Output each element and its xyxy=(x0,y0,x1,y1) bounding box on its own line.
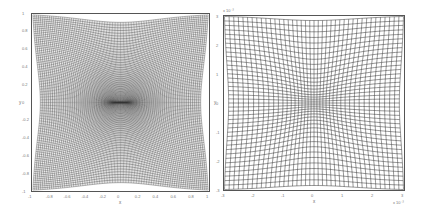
right-x-tick: 0 xyxy=(311,193,313,198)
right-x-tick: 2 xyxy=(371,193,373,198)
right-y-tick: -2 xyxy=(216,159,220,164)
right-y-tick: -3 xyxy=(216,188,220,193)
right-plot-area xyxy=(223,15,405,191)
right-x-multiplier: x 10⁻³ xyxy=(393,200,404,205)
right-y-label: y xyxy=(214,100,216,105)
right-y-tick: 2 xyxy=(216,43,218,48)
right-x-tick: 3 xyxy=(401,193,403,198)
right-x-tick: 1 xyxy=(341,193,343,198)
right-x-tick: -3 xyxy=(221,193,225,198)
right-x-tick: -2 xyxy=(251,193,255,198)
right-y-tick: 3 xyxy=(216,14,218,19)
right-mesh xyxy=(224,16,404,190)
right-y-tick: 1 xyxy=(216,72,218,77)
right-y-tick: -1 xyxy=(216,130,220,135)
right-y-multiplier: x 10⁻³ xyxy=(223,8,234,13)
right-x-label: x xyxy=(313,199,315,204)
right-x-tick: -1 xyxy=(281,193,285,198)
right-chart: 3210-1-2-3 -3-2-10123 x 10⁻³ x 10⁻³ x y xyxy=(0,0,427,213)
right-y-tick: 0 xyxy=(216,101,218,106)
